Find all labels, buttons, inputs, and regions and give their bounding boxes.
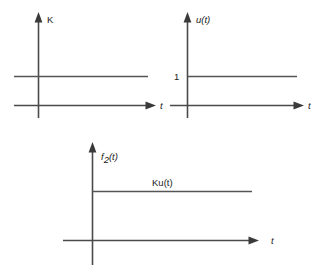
plot2-y-axis-arrowhead (184, 12, 192, 23)
plot2-y-axis-label: u(t) (196, 14, 210, 25)
plot3-x-axis-label: t (271, 235, 274, 246)
plot1-y-axis-label: K (47, 14, 54, 25)
plot3-curve-label: Ku(t) (152, 177, 173, 188)
plot-unit-step: u(t) 1 t (170, 12, 311, 118)
plot3-y-axis-arrowhead (89, 142, 97, 153)
plot1-y-axis-arrowhead (35, 12, 43, 23)
plot3-y-axis-label: f2(t) (101, 151, 118, 165)
signal-plots-figure: K t u(t) 1 t (0, 0, 320, 273)
plot1-x-axis-arrowhead (146, 101, 157, 109)
plots-canvas: K t u(t) 1 t (0, 0, 320, 273)
plot3-x-axis-arrowhead (249, 236, 260, 244)
plot2-tick-label-one: 1 (174, 71, 179, 82)
plot3-y-axis-label-arg: (t) (109, 151, 118, 162)
plot3-curve-label-step: u(t) (158, 177, 172, 188)
plot-scaled-step: f2(t) Ku(t) t (63, 142, 274, 265)
plot2-x-axis-arrowhead (294, 101, 305, 109)
plot2-x-axis-label: t (308, 100, 311, 111)
plot-constant-k: K t (14, 12, 163, 118)
plot1-x-axis-label: t (160, 100, 163, 111)
plot2-y-axis-label-arg: (t) (201, 14, 210, 25)
